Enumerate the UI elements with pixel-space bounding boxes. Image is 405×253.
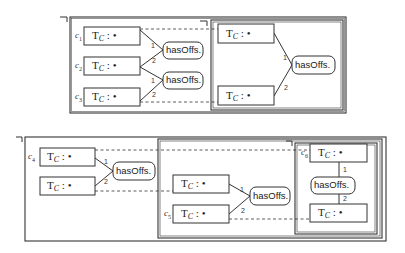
concept-label: TC : •: [318, 147, 343, 158]
concept-label: TC : •: [226, 28, 251, 39]
concept-id-c2: c2: [75, 61, 82, 72]
edge-label: 2: [104, 178, 108, 185]
concept-id-c4: c4: [28, 152, 35, 163]
concept-label: TC : •: [92, 91, 117, 102]
cut-corner-mark: [200, 21, 207, 26]
edge-label: 2: [343, 195, 347, 202]
concept-label: TC : •: [92, 30, 117, 41]
concept-id-c3: c3: [75, 92, 82, 103]
cut-corner-mark: [16, 137, 22, 142]
edge-label: 1: [240, 186, 244, 193]
relation-label: hasOffs.: [166, 75, 201, 85]
concept-label: TC : •: [92, 60, 117, 71]
edge: [274, 65, 292, 96]
edge-label: 2: [152, 57, 156, 64]
edge-label: 1: [104, 158, 108, 165]
concept-id-c5: c5: [164, 209, 171, 220]
relation-label: hasOffs.: [116, 166, 151, 176]
relation-label: hasOffs.: [314, 180, 349, 190]
edge-label: 1: [343, 166, 347, 173]
edge-label: 1: [283, 54, 287, 61]
cut-corner-mark: [286, 141, 292, 146]
concept-id-c1: c1: [75, 31, 82, 42]
relation-label: hasOffs.: [295, 60, 330, 70]
edge-label: 1: [151, 77, 155, 84]
concept-label: TC : •: [47, 180, 72, 191]
concept-label: TC : •: [318, 207, 343, 218]
relation-label: hasOffs.: [253, 191, 288, 201]
edge: [229, 196, 250, 214]
concept-label: TC : •: [181, 208, 206, 219]
cut-corner-mark: [60, 17, 67, 22]
edge-label: 1: [151, 42, 155, 49]
concept-label: TC : •: [47, 151, 72, 162]
relation-label: hasOffs.: [166, 45, 201, 55]
concept-id-c6: c6: [301, 148, 308, 159]
concept-label: TC : •: [226, 90, 251, 101]
edge-label: 2: [284, 84, 288, 91]
concept-label: TC : •: [181, 178, 206, 189]
edge-label: 2: [152, 91, 156, 98]
edge-label: 2: [241, 207, 245, 214]
